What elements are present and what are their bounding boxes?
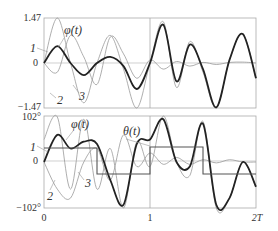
- bottom-series-3-label: 3: [84, 176, 91, 190]
- x-tick-2T: 2T: [252, 212, 264, 223]
- top-series-1-label: 1: [30, 41, 36, 55]
- top-series-3-label: 3: [78, 89, 85, 103]
- top-series-2-label: 2: [57, 93, 63, 107]
- top-series-1-leader: [37, 48, 48, 52]
- bottom-ymin-label: −102°: [16, 202, 41, 213]
- x-tick-0: 0: [42, 212, 47, 223]
- top-series-2-leader: [50, 93, 56, 98]
- bottom-series-1-leader: [37, 146, 48, 152]
- theta-label: θ(t): [123, 124, 140, 138]
- bottom-zero-label: 0: [33, 155, 38, 166]
- top-ymax-label: 1.47: [24, 12, 42, 23]
- top-curve-label: φ̇(t): [64, 23, 82, 37]
- bottom-series-1-label: 1: [30, 140, 36, 154]
- theta-step-series: [44, 147, 256, 174]
- top-curve-leader: [58, 38, 64, 48]
- bottom-curve-label: φ(t): [71, 117, 89, 131]
- x-tick-1: 1: [148, 212, 153, 223]
- bottom-series-2-label: 2: [47, 189, 53, 203]
- bottom-ymax-label: 102°: [22, 111, 41, 122]
- top-zero-label: 0: [33, 57, 38, 68]
- bottom-curve-leader: [66, 131, 73, 140]
- figure: 1.47 0 −1.47 φ̇(t) 1 2 3 102° 0 −102° φ(…: [0, 0, 278, 231]
